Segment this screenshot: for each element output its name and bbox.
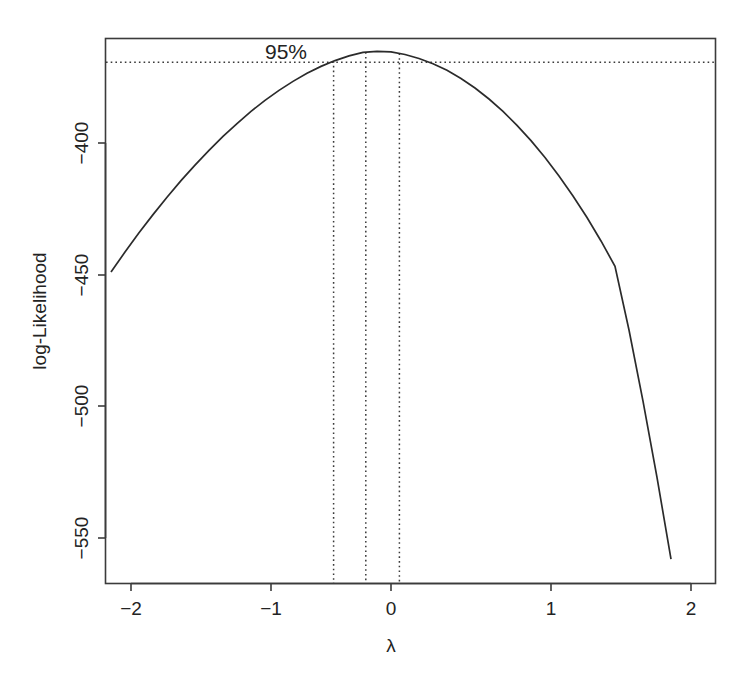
x-tick-label-1: −1 (260, 598, 282, 619)
plot-canvas: 95% −400 −450 −500 −550 log-Likelihood −… (0, 0, 745, 680)
x-tick-label-3: 1 (546, 598, 557, 619)
x-axis: −2 −1 0 1 2 λ (120, 584, 696, 657)
y-tick-label-1: −450 (71, 254, 92, 297)
y-tick-label-2: −500 (71, 385, 92, 428)
log-likelihood-curve (111, 51, 671, 559)
confidence-level-label: 95% (265, 40, 307, 63)
x-axis-title: λ (386, 635, 396, 656)
y-tick-label-3: −550 (71, 517, 92, 560)
x-tick-label-4: 2 (686, 598, 697, 619)
y-tick-label-0: −400 (71, 122, 92, 165)
boxcox-loglikelihood-figure: 95% −400 −450 −500 −550 log-Likelihood −… (0, 0, 745, 680)
x-tick-label-2: 0 (386, 598, 397, 619)
y-axis: −400 −450 −500 −550 log-Likelihood (29, 122, 106, 560)
y-axis-title: log-Likelihood (29, 252, 50, 369)
x-tick-label-0: −2 (120, 598, 142, 619)
